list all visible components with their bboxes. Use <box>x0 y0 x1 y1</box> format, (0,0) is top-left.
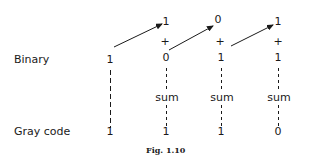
gray-bit-2: 1 <box>218 126 225 138</box>
gray-bit-1: 1 <box>163 126 170 138</box>
gray-bit-3: 0 <box>275 126 282 138</box>
binary-bit-0: 1 <box>107 54 114 66</box>
plus-sign-2: + <box>215 36 224 48</box>
figure-caption: Fig. 1.10 <box>146 144 185 156</box>
arrow-1 <box>114 24 162 47</box>
binary-bit-2: 1 <box>218 52 225 64</box>
plus-sign-3: + <box>273 36 282 48</box>
shifted-bit-1: 0 <box>215 14 222 26</box>
arrow-2 <box>169 26 213 50</box>
sum-label-1: sum <box>155 92 178 104</box>
sum-label-2: sum <box>210 92 233 104</box>
binary-bit-3: 1 <box>275 52 282 64</box>
gray-code-label: Gray code <box>14 126 70 138</box>
arrow-3 <box>231 25 273 46</box>
gray-bit-0: 1 <box>107 126 114 138</box>
shifted-bit-0: 1 <box>163 16 170 28</box>
shifted-bit-2: 1 <box>275 16 282 28</box>
sum-label-3: sum <box>267 92 290 104</box>
binary-label: Binary <box>14 54 49 66</box>
binary-bit-1: 0 <box>163 52 170 64</box>
plus-sign-1: + <box>160 36 169 48</box>
